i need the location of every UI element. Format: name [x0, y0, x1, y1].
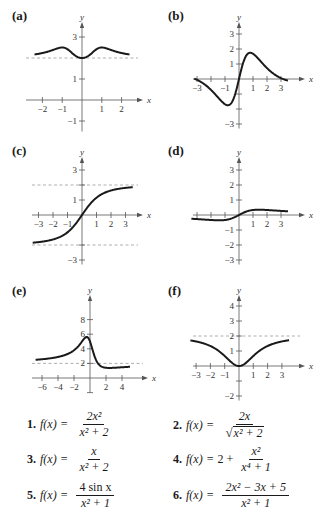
- formula-lhs: f(x): [186, 452, 203, 467]
- formula-5: 5. f(x) = 4 sin x x² + 1: [27, 481, 114, 510]
- y-tick-label: −1: [224, 225, 234, 235]
- y-tick-label: 4: [230, 301, 235, 311]
- y-tick-label: 1: [73, 195, 78, 205]
- fraction: 2x √ x² + 2: [222, 410, 266, 440]
- formula-number: 1.: [27, 417, 36, 432]
- formula-number: 3.: [27, 452, 36, 467]
- formula-number: 2.: [173, 418, 182, 433]
- formula-lhs: f(x): [186, 418, 203, 433]
- equals-sign: =: [61, 488, 68, 503]
- y-tick-label: 4: [81, 344, 86, 354]
- denominator: x² + 1: [238, 496, 273, 510]
- y-axis-arrow-icon: [80, 157, 84, 163]
- formula-lhs: f(x): [40, 417, 57, 432]
- y-tick-label: 3: [230, 29, 235, 39]
- y-tick-label: −2: [224, 240, 234, 250]
- y-axis-label: y: [236, 12, 241, 22]
- x-axis-arrow-icon: [299, 364, 305, 368]
- x-tick-label: −3: [191, 370, 201, 380]
- x-tick-label: 1: [251, 83, 256, 93]
- x-tick-label: −1: [57, 104, 67, 114]
- x-axis-label: x: [151, 373, 156, 383]
- graphs-figure: (a)xy−2−112−113(b)xy−3−1123−3123(c)xy−3−…: [0, 0, 318, 410]
- y-tick-label: −3: [224, 255, 234, 265]
- fraction: x² x⁴ + 1: [238, 445, 274, 474]
- numerator: 2x: [236, 410, 253, 425]
- y-axis-label: y: [236, 147, 241, 157]
- y-tick-label: 8: [81, 315, 86, 325]
- denominator: √ x² + 2: [222, 425, 266, 440]
- y-tick-label: −2: [224, 391, 234, 401]
- graph-panel-f: (f)xy−3−2−1123−21234: [168, 283, 313, 401]
- numerator: 2x² − 3x + 5: [222, 481, 288, 496]
- formula-1: 1. f(x) = 2x² x² + 2: [27, 410, 111, 439]
- y-tick-label: 2: [230, 180, 235, 190]
- graph-panel-e: (e)xy−6−4−2242468: [12, 283, 156, 393]
- y-tick-label: 1: [230, 195, 235, 205]
- x-tick-label: 2: [265, 219, 270, 229]
- x-tick-label: 2: [265, 83, 270, 93]
- x-axis-label: x: [308, 361, 313, 371]
- x-tick-label: −6: [37, 382, 47, 392]
- x-tick-label: 3: [279, 83, 284, 93]
- y-tick-label: 1: [73, 74, 78, 84]
- x-tick-label: −3: [34, 219, 44, 229]
- x-tick-label: 4: [120, 382, 125, 392]
- x-tick-label: 1: [94, 219, 99, 229]
- x-tick-label: 3: [123, 219, 128, 229]
- x-axis-arrow-icon: [142, 376, 148, 380]
- panel-label: (b): [168, 8, 184, 23]
- panel-label: (f): [168, 283, 181, 298]
- panel-label: (d): [168, 143, 184, 158]
- formula-prefix: 2 +: [217, 452, 233, 467]
- x-tick-label: 2: [109, 219, 114, 229]
- denominator: x² + 1: [78, 496, 113, 510]
- x-tick-label: 1: [100, 104, 105, 114]
- x-tick-label: −3: [192, 83, 202, 93]
- x-tick-label: −1: [220, 83, 230, 93]
- x-tick-label: 1: [251, 219, 256, 229]
- y-axis-arrow-icon: [88, 295, 92, 301]
- fraction: 2x² − 3x + 5 x² + 1: [222, 481, 288, 510]
- y-tick-label: 3: [230, 316, 235, 326]
- x-axis-label: x: [308, 210, 313, 220]
- fraction: 4 sin x x² + 1: [76, 481, 114, 510]
- equals-sign: =: [61, 417, 68, 432]
- equals-sign: =: [61, 452, 68, 467]
- radical-sign-icon: √: [225, 427, 232, 439]
- x-tick-label: 2: [104, 382, 109, 392]
- equals-sign: =: [207, 418, 214, 433]
- y-tick-label: 2: [81, 358, 86, 368]
- y-axis-label: y: [87, 285, 92, 295]
- y-tick-label: 1: [230, 346, 235, 356]
- formula-2: 2. f(x) = 2x √ x² + 2: [173, 410, 267, 440]
- x-tick-label: −2: [48, 219, 58, 229]
- formula-lhs: f(x): [40, 452, 57, 467]
- x-tick-label: −1: [63, 219, 73, 229]
- x-tick-label: −1: [220, 370, 230, 380]
- panel-label: (c): [12, 143, 26, 158]
- x-tick-label: 2: [119, 104, 124, 114]
- graph-panel-c: (c)xy−3−2−1123−313: [12, 143, 151, 265]
- denominator: x² + 2: [76, 425, 111, 439]
- numerator: 2x²: [83, 410, 104, 425]
- graph-panel-d: (d)xy123−3−2−1123: [168, 143, 313, 265]
- formula-number: 5.: [27, 488, 36, 503]
- numerator: x²: [249, 445, 264, 460]
- fraction: x x² + 2: [76, 445, 111, 474]
- y-tick-label: 2: [230, 331, 235, 341]
- equals-sign: =: [207, 488, 214, 503]
- y-axis-arrow-icon: [237, 22, 241, 28]
- x-tick-label: −2: [69, 382, 79, 392]
- equals-sign: =: [207, 452, 214, 467]
- x-tick-label: −2: [38, 104, 48, 114]
- y-axis-arrow-icon: [237, 295, 241, 301]
- panel-label: (a): [12, 8, 27, 23]
- square-root: √ x² + 2: [225, 426, 263, 439]
- x-tick-label: 3: [280, 370, 285, 380]
- x-axis-arrow-icon: [299, 213, 305, 217]
- formula-3: 3. f(x) = x x² + 2: [27, 445, 111, 474]
- x-axis-label: x: [146, 95, 151, 105]
- x-axis-arrow-icon: [137, 98, 143, 102]
- y-tick-label: −3: [67, 255, 77, 265]
